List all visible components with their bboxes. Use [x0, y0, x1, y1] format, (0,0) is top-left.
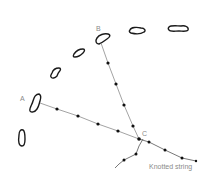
knot-str-3: [181, 157, 184, 160]
stones-group: [19, 26, 189, 146]
knot-c: [137, 137, 141, 141]
line-a-c: [40, 103, 139, 139]
stone-7-shape: [19, 130, 25, 146]
knot-ac-2: [76, 114, 79, 117]
strings-group: [40, 43, 196, 168]
stone-b-shape: [96, 34, 110, 44]
diagram-svg: [0, 0, 209, 174]
label-b: B: [96, 25, 101, 32]
knot-str-end: [195, 160, 197, 162]
knot-br-2: [123, 159, 126, 162]
stone-4-shape: [73, 49, 84, 57]
knot-bc-1: [106, 61, 109, 64]
knot-br-1: [135, 153, 138, 156]
knots-group: [55, 61, 197, 162]
label-a: A: [20, 95, 25, 102]
stone-a-shape: [30, 94, 41, 112]
stone-3-shape: [168, 26, 188, 32]
knot-bc-3: [122, 103, 125, 106]
knot-str-2: [164, 149, 167, 152]
stone-5-shape: [51, 68, 61, 78]
label-c: C: [142, 130, 147, 137]
label-knotted-string: Knotted string: [149, 163, 192, 170]
knot-bc-4: [131, 124, 134, 127]
stone-2-shape: [129, 27, 145, 33]
knot-ac-3: [96, 122, 99, 125]
knot-str-1: [148, 141, 151, 144]
diagram-canvas: B A C Knotted string: [0, 0, 209, 174]
knot-ac-1: [55, 107, 58, 110]
knot-ac-4: [116, 129, 119, 132]
knot-bc-2: [114, 82, 117, 85]
branch-string-line: [115, 139, 143, 168]
